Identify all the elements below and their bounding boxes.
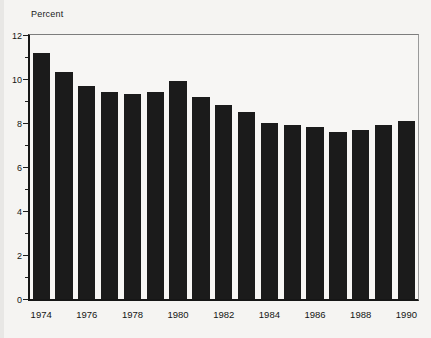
x-tick-label-1974: 1974 [23,309,59,320]
bar-1988 [352,130,369,299]
y-tick-major-0 [23,299,28,300]
y-tick-label-8: 8 [2,119,22,129]
bar-1976 [78,86,95,299]
bar-1985 [284,125,301,299]
bar-1987 [329,132,346,299]
y-tick-minor-9 [25,101,28,102]
x-tick-label-1982: 1982 [206,309,242,320]
y-tick-major-12 [23,35,28,36]
bar-1979 [147,92,164,299]
x-tick-label-1984: 1984 [251,309,287,320]
y-tick-minor-1 [25,277,28,278]
bar-1990 [398,121,415,299]
y-tick-minor-3 [25,233,28,234]
bar-1978 [124,94,141,299]
y-tick-label-0: 0 [2,295,22,305]
plot-area [28,34,419,301]
x-tick-label-1986: 1986 [297,309,333,320]
bar-1981 [192,97,209,299]
bar-1980 [169,81,186,299]
chart-page: Percent 024681012 1974197619781980198219… [0,0,431,338]
y-tick-major-6 [23,167,28,168]
bar-1986 [306,127,323,299]
bar-1975 [55,72,72,299]
y-tick-major-8 [23,123,28,124]
x-tick-label-1980: 1980 [160,309,196,320]
y-tick-minor-11 [25,57,28,58]
bar-1977 [101,92,118,299]
y-tick-minor-7 [25,145,28,146]
y-tick-label-10: 10 [2,75,22,85]
bar-1974 [33,53,50,299]
x-tick-label-1976: 1976 [69,309,105,320]
x-tick-label-1978: 1978 [115,309,151,320]
y-tick-label-12: 12 [2,31,22,41]
y-tick-label-4: 4 [2,207,22,217]
x-tick-label-1990: 1990 [388,309,424,320]
y-tick-label-2: 2 [2,251,22,261]
y-tick-major-4 [23,211,28,212]
y-tick-major-2 [23,255,28,256]
bar-1983 [238,112,255,299]
y-tick-major-10 [23,79,28,80]
y-tick-label-6: 6 [2,163,22,173]
bar-1982 [215,105,232,299]
bar-1984 [261,123,278,299]
y-tick-minor-5 [25,189,28,190]
y-axis-title: Percent [31,9,63,20]
x-tick-label-1988: 1988 [343,309,379,320]
bar-1989 [375,125,392,299]
